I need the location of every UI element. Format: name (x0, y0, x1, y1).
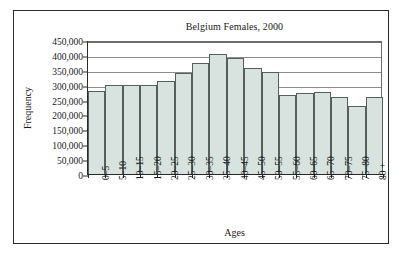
x-axis-tick-label: 70–75 (344, 156, 354, 180)
chart-title: Belgium Females, 2000 (87, 21, 382, 32)
y-axis-tick-label: 300,000 (52, 82, 83, 92)
y-axis-tick-label: 250,000 (52, 97, 83, 107)
x-axis-tick-label: 30–35 (205, 156, 215, 180)
y-axis-tick-label: 400,000 (52, 52, 83, 62)
y-axis-tick-label: 0 (78, 171, 83, 181)
x-axis-tick-label: 0–5 (101, 166, 111, 180)
x-axis-tick-label: 40–45 (240, 156, 250, 180)
plot-area: 450,000400,000350,000300,000250,000200,0… (87, 41, 382, 175)
x-axis-tick-label: 45–50 (257, 156, 267, 180)
bar (88, 91, 105, 174)
y-axis-tick-label: 450,000 (52, 37, 83, 47)
x-axis-tick-label: 75–80 (361, 156, 371, 180)
x-axis-tick-label: 10–15 (135, 156, 145, 180)
x-axis-tick-label: 15–20 (153, 156, 163, 180)
y-axis-tick-label: 50,000 (57, 156, 83, 166)
x-axis-tick-mark (88, 174, 89, 178)
x-axis-tick-label: 20–25 (170, 156, 180, 180)
y-axis-tick-label: 150,000 (52, 126, 83, 136)
x-axis-tick-label: 65–70 (326, 156, 336, 180)
x-axis-tick-label: 55–60 (292, 156, 302, 180)
x-axis-tick-label: 80 + (378, 163, 388, 180)
x-axis-tick-label: 25–30 (187, 156, 197, 180)
y-axis-tick-label: 200,000 (52, 111, 83, 121)
x-axis-tick-label: 60–65 (309, 156, 319, 180)
y-axis-tick-label: 100,000 (52, 141, 83, 151)
y-axis-tick-label: 350,000 (52, 67, 83, 77)
bars-group (88, 42, 381, 174)
figure-frame: Belgium Females, 2000 Frequency 450,0004… (13, 10, 389, 244)
x-axis-tick-label: 5–10 (118, 161, 128, 180)
x-axis-title: Ages (87, 227, 382, 238)
x-axis-tick-label: 50–55 (274, 156, 284, 180)
y-axis-title: Frequency (22, 41, 36, 175)
x-axis-tick-label: 35–40 (222, 156, 232, 180)
